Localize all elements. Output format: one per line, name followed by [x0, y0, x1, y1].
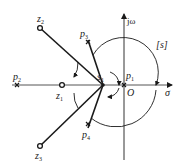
label-plane: [s] [156, 39, 168, 50]
zero-z3 [38, 144, 43, 149]
angle-arcs [74, 38, 158, 127]
poles [15, 40, 126, 126]
vector-z3-s1 [40, 85, 103, 146]
zeros [38, 26, 65, 149]
angle-arc-z2 [74, 62, 78, 77]
angle-arc-p1 [110, 72, 119, 85]
label-z1: z1 [55, 90, 63, 102]
label-p4: p4 [81, 129, 90, 141]
zero-z1 [60, 83, 65, 88]
label-p2: p2 [12, 71, 21, 83]
label-p1: p1 [125, 70, 134, 82]
label-z2: z2 [36, 13, 44, 25]
label-p3: p3 [79, 28, 88, 40]
root-locus-angle-diagram: z2 p3 p2 z1 s1 p1 O σ jω [s] p4 z3 [0, 0, 183, 165]
label-origin: O [127, 87, 134, 98]
label-sigma: σ [165, 87, 171, 98]
vectors [40, 28, 103, 146]
label-z3: z3 [34, 150, 42, 162]
label-s1: s1 [97, 71, 104, 83]
zero-z2 [38, 26, 43, 31]
angle-arc-p1-lower [108, 88, 119, 97]
label-jw: jω [126, 16, 136, 26]
angle-arc-z3 [74, 93, 78, 108]
test-point-s1 [101, 83, 105, 87]
